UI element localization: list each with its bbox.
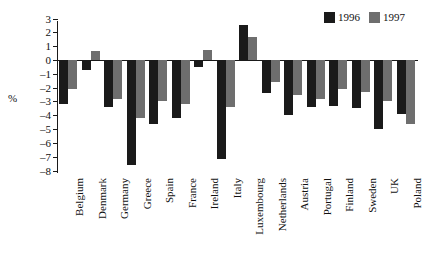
bar-italy-1996 <box>217 60 226 159</box>
x-tick-label: Luxembourg <box>254 178 265 262</box>
bar-group <box>81 21 104 173</box>
bar-group <box>283 21 306 173</box>
y-tick-label: 0 <box>25 54 51 66</box>
y-tick-label: 3 <box>25 13 51 25</box>
bar-austria-1997 <box>293 60 302 95</box>
x-tick-label: Sweden <box>367 178 378 262</box>
bar-italy-1997 <box>226 60 235 107</box>
bar-poland-1997 <box>406 60 415 124</box>
y-tick-label: 1 <box>25 40 51 52</box>
bar-group <box>328 21 351 173</box>
bar-group <box>58 21 81 173</box>
bar-spain-1996 <box>149 60 158 124</box>
bar-germany-1997 <box>113 60 122 99</box>
bar-greece-1997 <box>136 60 145 118</box>
bar-group <box>193 21 216 173</box>
bar-belgium-1996 <box>59 60 68 104</box>
bar-austria-1996 <box>284 60 293 115</box>
bar-ireland-1997 <box>203 50 212 60</box>
bar-uk-1997 <box>383 60 392 101</box>
x-tick-label: Finland <box>344 178 355 262</box>
bar-sweden-1997 <box>361 60 370 92</box>
bar-france-1996 <box>172 60 181 118</box>
bar-chart: 1996 1997 % 3210–1–2–3–4–5–6–7–8 Belgium… <box>0 0 431 267</box>
bar-luxembourg-1996 <box>239 25 248 60</box>
bar-group <box>238 21 261 173</box>
bar-group <box>351 21 374 173</box>
bar-denmark-1996 <box>82 60 91 70</box>
x-tick-label: Greece <box>142 178 153 262</box>
bar-sweden-1996 <box>352 60 361 108</box>
bar-group <box>171 21 194 173</box>
x-tick-label: UK <box>389 178 400 262</box>
x-tick-label: Germany <box>119 178 130 262</box>
x-tick-label: Portugal <box>322 178 333 262</box>
x-tick-label: Denmark <box>97 178 108 262</box>
x-tick-label: Belgium <box>74 178 85 262</box>
bar-uk-1996 <box>374 60 383 129</box>
bar-group <box>373 21 396 173</box>
plot-area <box>58 21 418 173</box>
bar-germany-1996 <box>104 60 113 107</box>
y-tick-label: –4 <box>25 109 51 121</box>
y-tick-label: 2 <box>25 26 51 38</box>
x-tick-label: Ireland <box>209 178 220 262</box>
y-axis-label: % <box>8 92 17 104</box>
bar-portugal-1997 <box>316 60 325 99</box>
y-tick-label: –6 <box>25 137 51 149</box>
bar-belgium-1997 <box>68 60 77 89</box>
y-tick-label: –5 <box>25 123 51 135</box>
bar-group <box>261 21 284 173</box>
bar-finland-1997 <box>338 60 347 89</box>
bar-group <box>148 21 171 173</box>
bar-spain-1997 <box>158 60 167 101</box>
bar-finland-1996 <box>329 60 338 106</box>
x-tick-label: Poland <box>412 178 423 262</box>
y-tick-label: –7 <box>25 151 51 163</box>
x-tick-label: France <box>187 178 198 262</box>
bar-poland-1996 <box>397 60 406 114</box>
x-tick-label: Austria <box>299 178 310 262</box>
bar-ireland-1996 <box>194 60 203 67</box>
y-tick-label: –3 <box>25 95 51 107</box>
y-tick-label: –1 <box>25 68 51 80</box>
y-tick-mark <box>53 19 58 20</box>
bar-denmark-1997 <box>91 51 100 60</box>
bar-netherlands-1997 <box>271 60 280 82</box>
bar-luxembourg-1997 <box>248 37 257 60</box>
bar-group <box>103 21 126 173</box>
bar-portugal-1996 <box>307 60 316 107</box>
bar-netherlands-1996 <box>262 60 271 93</box>
bar-greece-1996 <box>127 60 136 165</box>
bar-france-1997 <box>181 60 190 104</box>
x-tick-label: Spain <box>164 178 175 262</box>
y-tick-label: –8 <box>25 165 51 177</box>
y-tick-label: –2 <box>25 82 51 94</box>
x-tick-label: Netherlands <box>277 178 288 262</box>
x-tick-label: Italy <box>232 178 243 262</box>
bar-group <box>306 21 329 173</box>
bar-group <box>216 21 239 173</box>
bar-group <box>126 21 149 173</box>
bar-group <box>396 21 419 173</box>
